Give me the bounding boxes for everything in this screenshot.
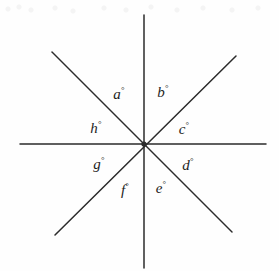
degree-symbol-g: ° [101,155,105,165]
degree-symbol-f: ° [125,181,129,191]
angle-label-b: b° [157,84,169,101]
angle-label-e: e° [156,180,167,197]
lines-canvas [0,0,279,271]
angle-label-f: f° [121,182,129,199]
degree-symbol-b: ° [165,83,169,93]
angle-label-g: g° [93,156,105,173]
angle-letter-b: b [157,84,165,100]
degree-symbol-h: ° [98,119,102,129]
degree-symbol-c: ° [186,120,190,130]
angle-label-h: h° [90,120,102,137]
angle-letter-a: a [113,86,121,102]
angle-letter-c: c [179,121,186,137]
angle-letter-g: g [93,156,101,172]
angle-letter-e: e [156,180,163,196]
angles-diagram-figure: a° b° c° d° e° f° g° h° [0,0,279,271]
degree-symbol-d: ° [190,156,194,166]
diagonal-nw-se-line [52,52,232,232]
angle-label-d: d° [182,157,194,174]
angle-label-c: c° [179,121,190,138]
angle-letter-h: h [90,120,98,136]
degree-symbol-a: ° [121,85,125,95]
angle-letter-d: d [182,157,190,173]
degree-symbol-e: ° [163,179,167,189]
angle-label-a: a° [113,86,125,103]
intersection-point [141,141,146,146]
